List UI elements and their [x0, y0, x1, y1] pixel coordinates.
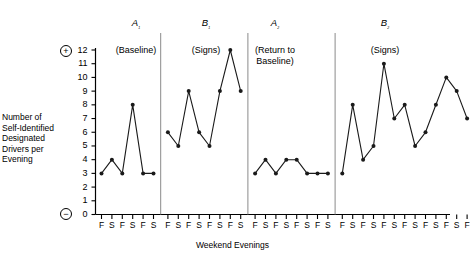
- x-tick-label: S: [348, 221, 358, 230]
- y-tick-label: 8: [70, 100, 88, 109]
- x-tick-label: S: [369, 221, 379, 230]
- data-point: [208, 144, 212, 148]
- data-line-phase-1: [102, 105, 154, 174]
- data-point: [444, 75, 448, 79]
- x-tick-label: F: [441, 221, 451, 230]
- data-point: [141, 171, 145, 175]
- x-tick-label: F: [421, 221, 431, 230]
- data-point: [166, 130, 170, 134]
- data-point: [152, 171, 156, 175]
- x-tick-label: S: [194, 221, 204, 230]
- x-tick-label: S: [389, 221, 399, 230]
- x-tick-label: S: [431, 221, 441, 230]
- data-point: [465, 117, 469, 121]
- y-tick-label: 4: [70, 155, 88, 164]
- x-tick-label: F: [292, 221, 302, 230]
- y-tick-label: 1: [70, 196, 88, 205]
- x-tick-label: F: [379, 221, 389, 230]
- data-point: [295, 158, 299, 162]
- y-tick-label: 11: [70, 59, 88, 68]
- data-point: [131, 103, 135, 107]
- x-tick-label: F: [117, 221, 127, 230]
- x-tick-label: F: [225, 221, 235, 230]
- data-point: [253, 171, 257, 175]
- data-point: [218, 89, 222, 93]
- x-tick-label: F: [163, 221, 173, 230]
- x-tick-label: F: [400, 221, 410, 230]
- data-point: [305, 171, 309, 175]
- data-point: [403, 103, 407, 107]
- x-tick-label: S: [452, 221, 462, 230]
- data-point: [392, 117, 396, 121]
- data-point: [424, 130, 428, 134]
- x-tick-label: S: [281, 221, 291, 230]
- phase-dividers: [161, 33, 335, 215]
- y-tick-label: 7: [70, 114, 88, 123]
- data-point: [274, 171, 278, 175]
- x-tick-label: S: [261, 221, 271, 230]
- y-tick-label: 5: [70, 141, 88, 150]
- data-line-phase-2: [168, 50, 241, 146]
- x-tick-label: F: [313, 221, 323, 230]
- x-tick-label: S: [173, 221, 183, 230]
- data-point: [455, 89, 459, 93]
- x-tick-label: S: [128, 221, 138, 230]
- x-tick-label: F: [250, 221, 260, 230]
- data-point: [197, 130, 201, 134]
- data-point: [316, 171, 320, 175]
- data-point: [361, 158, 365, 162]
- data-point: [382, 62, 386, 66]
- y-tick-label: 6: [70, 128, 88, 137]
- x-tick-label: F: [184, 221, 194, 230]
- x-tick-label: F: [358, 221, 368, 230]
- data-point: [239, 89, 243, 93]
- x-tick-label: F: [97, 221, 107, 230]
- data-point: [372, 144, 376, 148]
- x-tick-label: F: [337, 221, 347, 230]
- data-point: [340, 171, 344, 175]
- y-tick-label: 10: [70, 73, 88, 82]
- data-point: [284, 158, 288, 162]
- x-tick-label: S: [149, 221, 159, 230]
- x-tick-label: S: [215, 221, 225, 230]
- y-tick-label: 3: [70, 169, 88, 178]
- x-tick-label: S: [107, 221, 117, 230]
- x-tick-label: S: [323, 221, 333, 230]
- x-tick-label: S: [236, 221, 246, 230]
- x-tick-label: F: [138, 221, 148, 230]
- y-tick-label: 2: [70, 183, 88, 192]
- x-tick-label: F: [205, 221, 215, 230]
- data-point: [120, 171, 124, 175]
- data-line-phase-4: [342, 64, 467, 174]
- data-point: [413, 144, 417, 148]
- data-point: [187, 89, 191, 93]
- x-tick-label: S: [302, 221, 312, 230]
- data-point: [434, 103, 438, 107]
- data-point: [351, 103, 355, 107]
- data-point: [110, 158, 114, 162]
- data-line-phase-3: [255, 160, 328, 174]
- data-point: [100, 171, 104, 175]
- data-point: [176, 144, 180, 148]
- x-tick-marks: [102, 215, 468, 220]
- data-series-group: [100, 48, 470, 175]
- x-tick-label: F: [271, 221, 281, 230]
- y-tick-label: 0: [70, 210, 88, 219]
- y-tick-label: 12: [70, 46, 88, 55]
- data-point: [326, 171, 330, 175]
- x-tick-label: F: [462, 221, 472, 230]
- axes: [96, 48, 451, 215]
- y-tick-label: 9: [70, 87, 88, 96]
- data-point: [228, 48, 232, 52]
- data-point: [264, 158, 268, 162]
- x-tick-label: S: [410, 221, 420, 230]
